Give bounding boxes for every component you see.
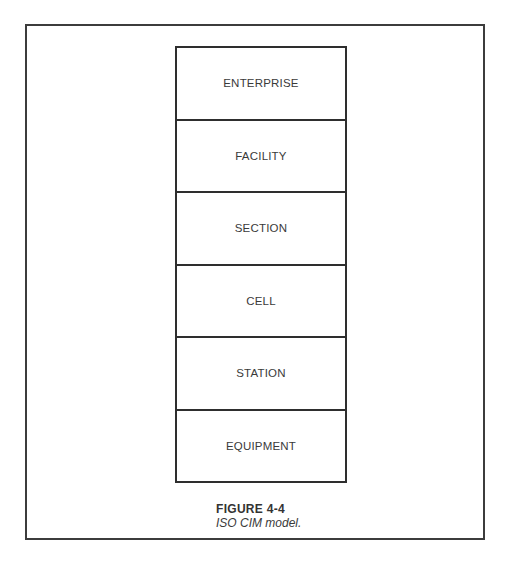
level-label: EQUIPMENT xyxy=(226,440,296,452)
level-label: CELL xyxy=(246,295,276,307)
level-equipment: EQUIPMENT xyxy=(177,409,345,482)
level-cell: CELL xyxy=(177,264,345,337)
level-facility: FACILITY xyxy=(177,119,345,192)
figure-caption-text: ISO CIM model. xyxy=(216,516,301,530)
level-station: STATION xyxy=(177,336,345,409)
level-label: ENTERPRISE xyxy=(223,77,299,89)
figure-number: FIGURE 4-4 xyxy=(216,502,301,516)
level-label: FACILITY xyxy=(235,150,286,162)
cim-hierarchy-stack: ENTERPRISE FACILITY SECTION CELL STATION… xyxy=(175,46,347,483)
level-section: SECTION xyxy=(177,191,345,264)
figure-caption: FIGURE 4-4 ISO CIM model. xyxy=(216,502,301,530)
level-label: STATION xyxy=(236,367,286,379)
level-enterprise: ENTERPRISE xyxy=(177,48,345,119)
level-label: SECTION xyxy=(235,222,288,234)
